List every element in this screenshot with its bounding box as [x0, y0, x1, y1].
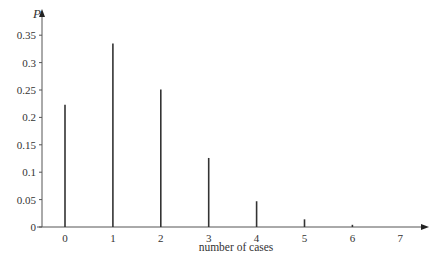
y-tick-label: 0.1	[22, 166, 36, 178]
stick-chart: 00.050.10.150.20.250.30.3501234567 P num…	[0, 0, 443, 262]
y-tick-label: 0.05	[17, 194, 37, 206]
x-axis-arrow-icon	[421, 224, 429, 230]
axis-labels: P number of cases	[32, 6, 274, 253]
y-tick-label: 0.2	[22, 111, 36, 123]
bars	[65, 43, 352, 227]
y-tick-label: 0.35	[17, 29, 37, 41]
y-tick-label: 0	[31, 221, 37, 233]
x-tick-label: 0	[62, 232, 68, 244]
x-tick-label: 5	[302, 232, 308, 244]
x-tick-label: 1	[110, 232, 116, 244]
x-tick-label: 2	[158, 232, 164, 244]
x-axis-label: number of cases	[199, 241, 274, 253]
y-axis-label: P	[32, 6, 41, 21]
x-tick-label: 7	[398, 232, 404, 244]
x-tick-label: 6	[350, 232, 356, 244]
chart-canvas: 00.050.10.150.20.250.30.3501234567 P num…	[0, 0, 443, 262]
axes: 00.050.10.150.20.250.30.3501234567	[17, 9, 429, 244]
y-tick-label: 0.15	[17, 139, 37, 151]
y-tick-label: 0.3	[22, 57, 36, 69]
y-tick-label: 0.25	[17, 84, 37, 96]
